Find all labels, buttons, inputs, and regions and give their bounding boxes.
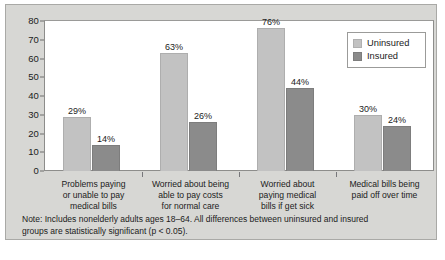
x-axis-category-label: Medical bills beingpaid off over time	[336, 179, 433, 201]
category-label-line: Problems paying	[45, 179, 142, 190]
category-label-line: paid off over time	[336, 190, 433, 201]
y-axis-tick-mark	[40, 39, 44, 40]
y-axis-tick-mark	[40, 133, 44, 134]
category-label-line: able to pay costs	[142, 190, 239, 201]
y-axis-tick-label: 50	[28, 73, 39, 83]
bar-group: 29%14%	[45, 21, 142, 171]
legend: UninsuredInsured	[347, 32, 426, 68]
bar-value-label: 29%	[68, 107, 86, 116]
y-axis-tick-mark	[40, 114, 44, 115]
bar-insured: 14%	[92, 145, 120, 171]
legend-swatch-icon	[353, 52, 362, 61]
y-axis-tick-label: 20	[28, 129, 39, 139]
legend-swatch-icon	[353, 39, 362, 48]
category-label-line: Medical bills being	[336, 179, 433, 190]
x-axis-category-label: Worried aboutpaying medicalbills if get …	[239, 179, 336, 213]
legend-label: Insured	[367, 52, 398, 61]
bar-insured: 44%	[286, 88, 314, 171]
bar-uninsured: 29%	[63, 117, 91, 171]
y-axis-tick-label: 30	[28, 110, 39, 120]
bar-value-label: 44%	[291, 78, 309, 87]
category-label-line: bills if get sick	[239, 201, 336, 212]
x-axis-tick-mark	[142, 172, 143, 177]
bar-insured: 24%	[383, 126, 411, 171]
legend-item: Uninsured	[353, 37, 420, 50]
y-axis-tick-mark	[40, 77, 44, 78]
bar-group: 63%26%	[142, 21, 239, 171]
y-axis-tick-mark	[40, 96, 44, 97]
y-axis-tick-label: 40	[28, 91, 39, 101]
category-label-line: medical bills	[45, 201, 142, 212]
chart-note: Note: Includes nonelderly adults ages 18…	[22, 214, 426, 237]
y-axis-tick-mark	[40, 58, 44, 59]
legend-item: Insured	[353, 50, 420, 63]
note-line-1: Note: Includes nonelderly adults ages 18…	[22, 214, 426, 226]
bar-value-label: 76%	[262, 18, 280, 27]
bar-value-label: 63%	[165, 43, 183, 52]
category-label-line: Worried about	[239, 179, 336, 190]
y-axis: 01020304050607080	[11, 20, 44, 171]
y-axis-tick-label: 80	[28, 16, 39, 26]
y-axis-tick-label: 10	[28, 148, 39, 158]
x-axis-category-label: Problems payingor unable to paymedical b…	[45, 179, 142, 213]
y-axis-tick-label: 70	[28, 35, 39, 45]
y-axis-tick-label: 60	[28, 54, 39, 64]
y-axis-tick-mark	[40, 21, 44, 22]
x-axis-category-label: Worried about beingable to pay costsfor …	[142, 179, 239, 213]
bar-value-label: 24%	[388, 116, 406, 125]
bar-group: 76%44%	[239, 21, 336, 171]
x-axis: Problems payingor unable to paymedical b…	[45, 172, 434, 212]
figure-panel: 01020304050607080 29%14%63%26%76%44%30%2…	[5, 4, 437, 240]
bar-uninsured: 76%	[257, 28, 285, 171]
x-axis-tick-mark	[239, 172, 240, 177]
category-label-line: paying medical	[239, 190, 336, 201]
bar-uninsured: 63%	[160, 53, 188, 171]
category-label-line: for normal care	[142, 201, 239, 212]
y-axis-tick-mark	[40, 171, 44, 172]
y-axis-tick-mark	[40, 152, 44, 153]
bar-uninsured: 30%	[354, 115, 382, 171]
x-axis-tick-mark	[336, 172, 337, 177]
category-label-line: or unable to pay	[45, 190, 142, 201]
category-label-line: Worried about being	[142, 179, 239, 190]
bar-value-label: 14%	[97, 135, 115, 144]
bar-value-label: 26%	[194, 112, 212, 121]
bar-insured: 26%	[189, 122, 217, 171]
y-axis-tick-label: 0	[34, 166, 39, 176]
note-line-2: groups are statistically significant (p …	[22, 226, 426, 238]
legend-label: Uninsured	[367, 39, 409, 48]
bar-value-label: 30%	[359, 105, 377, 114]
chart-figure: 01020304050607080 29%14%63%26%76%44%30%2…	[0, 0, 445, 260]
